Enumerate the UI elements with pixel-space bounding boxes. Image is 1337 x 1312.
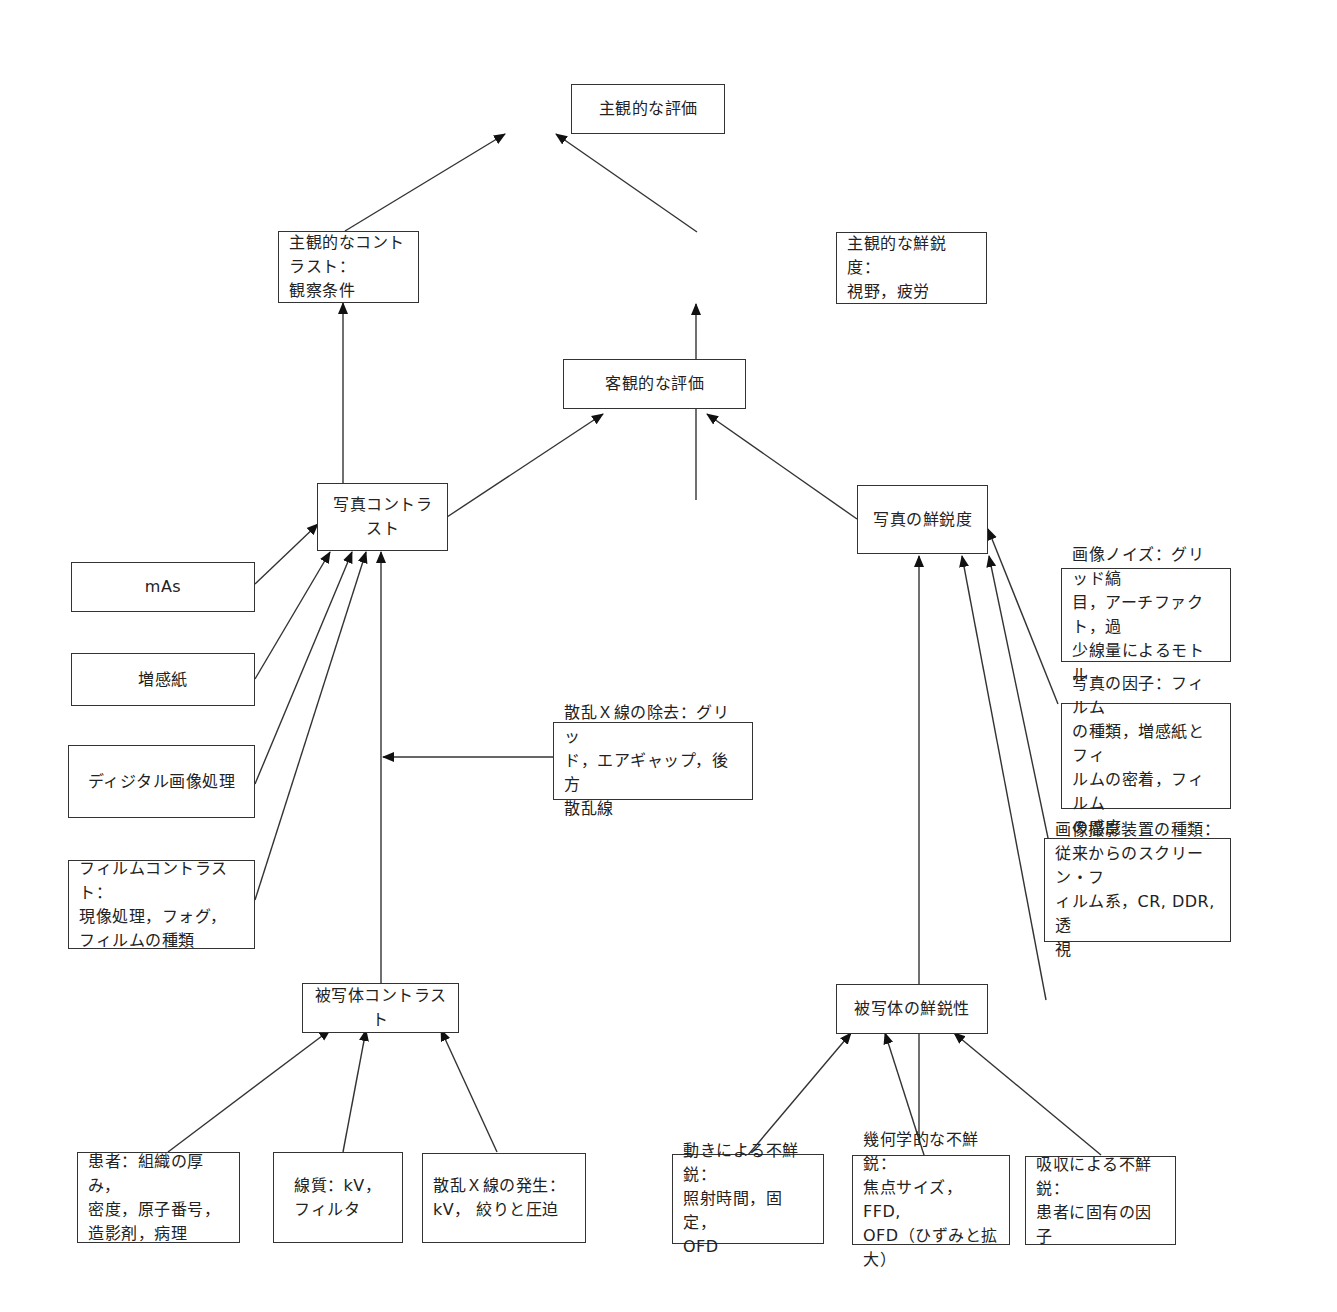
node-absorption-unsharpness: 吸収による不鮮鋭： 患者に固有の因子: [1025, 1156, 1176, 1245]
node-beam-quality: 線質：kV， フィルタ: [273, 1152, 403, 1243]
node-image-noise: 画像ノイズ：グリッド縞 目，アーチファクト，過 少線量によるモトル: [1061, 568, 1231, 662]
node-motion-unsharpness: 動きによる不鮮鋭： 照射時間，固定， OFD: [672, 1154, 824, 1244]
edge-image-noise-to-photo-sharpness: [988, 529, 1058, 704]
edge-beam-quality-to-subject-contrast: [343, 1030, 366, 1152]
node-subject-sharpness: 被写体の鮮鋭性: [836, 984, 988, 1034]
edge-photo-factors-to-photo-sharpness: [989, 556, 1057, 881]
edge-mas-to-photo-contrast: [255, 524, 318, 584]
node-subjective-sharpness: 主観的な鮮鋭度： 視野，疲労: [836, 232, 987, 304]
edge-scatter-generation-to-subject-contrast: [441, 1030, 497, 1152]
node-imaging-device: 画像撮影装置の種類： 従来からのスクリーン・フ ィルム系，CR, DDR, 透 …: [1044, 838, 1231, 942]
edge-photo-contrast-to-objective-eval: [447, 414, 603, 517]
edge-film-contrast-to-photo-contrast: [255, 552, 366, 900]
edge-motion-to-subject-sharpness: [748, 1033, 851, 1155]
diagram-canvas: 主観的な評価 主観的なコントラスト： 観察条件 主観的な鮮鋭度： 視野，疲労 客…: [0, 0, 1337, 1312]
edge-photo-sharpness-to-objective-eval: [707, 414, 857, 519]
node-scatter-generation: 散乱Ｘ線の発生： kV， 絞りと圧迫: [422, 1153, 586, 1243]
node-geometric-unsharpness: 幾何学的な不鮮鋭： 焦点サイズ，FFD, OFD（ひずみと拡大）: [852, 1155, 1010, 1245]
node-mas: mAs: [71, 562, 255, 612]
node-photo-sharpness: 写真の鮮鋭度: [857, 485, 988, 554]
edge-subjective-contrast-to-subjective-eval: [345, 134, 505, 231]
node-photo-contrast: 写真コントラスト: [317, 483, 448, 551]
node-subjective-contrast: 主観的なコントラスト： 観察条件: [278, 231, 419, 303]
node-film-contrast: フィルムコントラスト： 現像処理，フォグ， フィルムの種類: [68, 860, 255, 949]
node-objective-eval: 客観的な評価: [563, 359, 746, 409]
edge-imaging-device-to-photo-sharpness: [962, 556, 1046, 1000]
node-photo-factors: 写真の因子：フィルム の種類，増感紙とフィ ルムの密着，フィルム の感度: [1061, 703, 1231, 809]
node-subjective-eval: 主観的な評価: [571, 84, 725, 134]
edge-subjective-sharpness-to-subjective-eval: [556, 134, 697, 232]
edge-patient-to-subject-contrast: [168, 1030, 330, 1152]
node-intensifying-screen: 増感紙: [71, 653, 255, 706]
node-scatter-removal: 散乱Ｘ線の除去：グリッ ド，エアギャップ，後方 散乱線: [553, 722, 753, 800]
edge-screen-to-photo-contrast: [255, 552, 330, 679]
node-digital-processing: ディジタル画像処理: [68, 745, 255, 818]
node-patient: 患者：組織の厚み， 密度，原子番号， 造影剤，病理: [77, 1152, 240, 1243]
node-subject-contrast: 被写体コントラスト: [302, 983, 459, 1033]
